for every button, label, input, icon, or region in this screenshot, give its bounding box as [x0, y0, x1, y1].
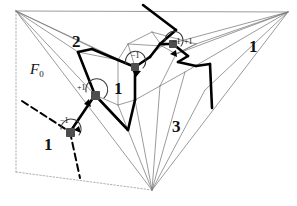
- region-label-1-center: 1: [114, 80, 123, 97]
- surface-mesh: [16, 11, 288, 190]
- region-label-1-lower-left: 1: [44, 136, 53, 153]
- face-label-subscript: 0: [39, 69, 44, 79]
- region-label-3: 3: [172, 118, 181, 135]
- index-label-top-right-a: −1: [172, 38, 181, 46]
- region-label-1-right: 1: [249, 38, 258, 55]
- index-label-center: −1: [131, 52, 140, 60]
- index-label-top-right-b: +1: [184, 38, 193, 46]
- index-label-left: +1: [77, 84, 86, 92]
- index-diagram-figure: 2 1 3 1 1 −1 +1 −1 −1 +1 F0: [0, 0, 297, 206]
- face-label-f0: F0: [30, 62, 44, 77]
- region-label-2: 2: [72, 33, 81, 50]
- face-label-base: F: [30, 61, 39, 77]
- diagram-canvas: [0, 0, 297, 206]
- index-label-bottom-left: −1: [60, 117, 69, 125]
